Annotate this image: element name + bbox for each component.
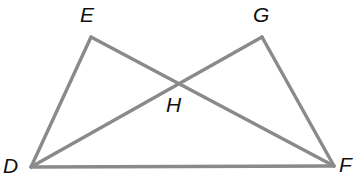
segment-de (31, 37, 91, 167)
segment-group (31, 37, 334, 167)
segment-dg (31, 37, 262, 167)
geometry-figure: DEGFH (0, 0, 361, 188)
vertex-label-g: G (253, 4, 269, 25)
vertex-label-d: D (3, 155, 18, 176)
segment-df (31, 166, 334, 167)
vertex-label-f: F (339, 154, 352, 175)
vertex-label-e: E (80, 4, 94, 25)
vertex-label-h: H (166, 94, 181, 115)
